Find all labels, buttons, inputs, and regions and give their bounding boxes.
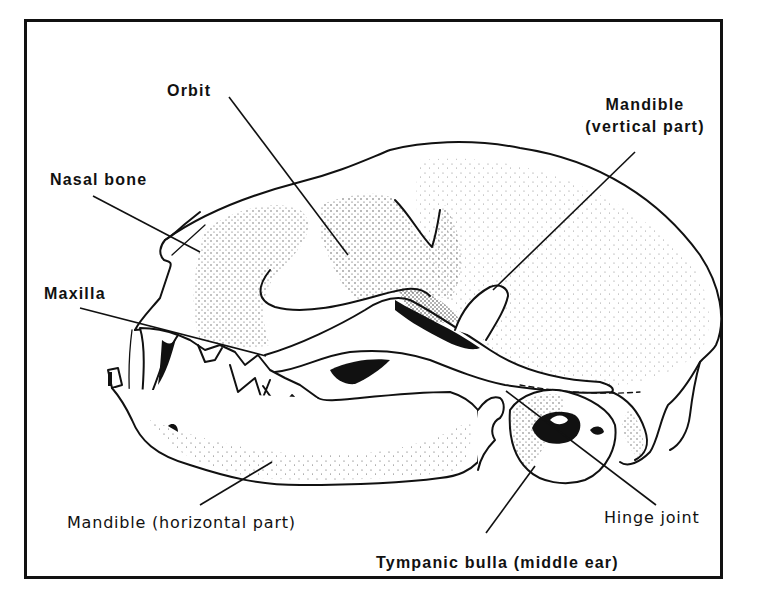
leader-mandible-vertical [493, 152, 635, 290]
leader-nasal-bone [93, 196, 200, 252]
figure: Orbit Mandible (vertical part) Nasal bon… [0, 0, 768, 600]
label-hinge-joint: Hinge joint [604, 508, 700, 528]
label-tympanic-bulla: Tympanic bulla (middle ear) [376, 553, 619, 573]
leader-mandible-horizontal [200, 462, 272, 505]
label-mandible-horizontal: Mandible (horizontal part) [67, 513, 296, 533]
leader-maxilla [80, 308, 266, 356]
label-mandible-vertical: Mandible (vertical part) [560, 95, 730, 137]
label-mandible-vertical-line2: (vertical part) [560, 117, 730, 137]
leader-hinge-joint [506, 391, 656, 505]
label-orbit: Orbit [167, 81, 211, 101]
leader-orbit [229, 97, 348, 255]
leader-tympanic-bulla [486, 466, 535, 533]
label-mandible-vertical-line1: Mandible [560, 95, 730, 115]
label-maxilla: Maxilla [44, 284, 106, 304]
label-nasal-bone: Nasal bone [50, 170, 147, 190]
